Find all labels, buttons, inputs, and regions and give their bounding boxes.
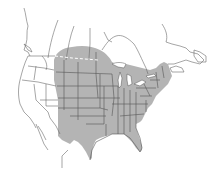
range-map (0, 0, 222, 173)
north-america-map-svg (0, 0, 222, 173)
